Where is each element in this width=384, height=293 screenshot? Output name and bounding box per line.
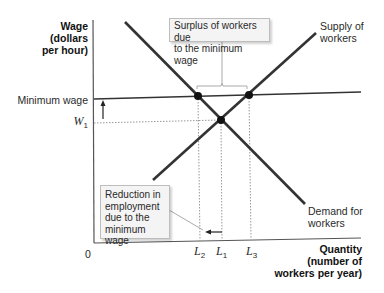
x-axis-label-line: workers per year) xyxy=(262,267,362,279)
supply-label-line: workers xyxy=(320,32,364,44)
equilibrium-point xyxy=(217,116,225,124)
minimum-wage-label: Minimum wage xyxy=(10,94,88,106)
l2-guide-line xyxy=(198,96,200,241)
surplus-bracket xyxy=(197,83,247,89)
l2-label: L2 xyxy=(194,245,205,262)
w1-base: W xyxy=(74,114,84,128)
x-axis-label-line: (number of xyxy=(262,255,362,267)
w1-guide-line xyxy=(94,120,221,123)
surplus-callout-line: to the minimum wage xyxy=(174,43,265,66)
reduction-callout-line: minimum wage xyxy=(105,224,165,247)
l3-sub: 3 xyxy=(253,251,257,260)
l3-label: L3 xyxy=(246,245,257,262)
supply-label-line: Supply of xyxy=(320,20,364,32)
supply-minwage-point xyxy=(245,91,253,99)
y-axis-label-line: per hour) xyxy=(20,44,88,56)
surplus-callout: Surplus of workers due to the minimum wa… xyxy=(169,18,270,42)
surplus-callout-line: Surplus of workers due xyxy=(174,20,265,43)
l1-guide-line xyxy=(221,120,222,240)
arrow-left-icon xyxy=(205,230,211,235)
y-axis-label-line: Wage xyxy=(20,20,88,32)
w1-sub: 1 xyxy=(84,121,88,130)
l1-label: L1 xyxy=(216,245,227,262)
reduction-callout-line: due to the xyxy=(105,212,165,224)
demand-label-line: workers xyxy=(308,217,363,229)
l2-base: L xyxy=(194,244,201,258)
demand-label-line: Demand for xyxy=(308,205,363,217)
y-axis-label-line: (dollars xyxy=(20,32,88,44)
l1-base: L xyxy=(216,244,223,258)
y-axis-label: Wage (dollars per hour) xyxy=(20,20,88,56)
arrow-up-icon xyxy=(101,100,106,106)
l3-base: L xyxy=(246,244,253,258)
demand-minwage-point xyxy=(194,92,202,100)
minimum-wage-line xyxy=(94,92,361,99)
origin-label: 0 xyxy=(85,248,91,260)
reduction-callout: Reduction in employment due to the minim… xyxy=(100,185,170,239)
l3-guide-line xyxy=(249,95,251,239)
x-axis-label: Quantity (number of workers per year) xyxy=(262,243,362,279)
reduction-leader-line xyxy=(169,210,203,230)
y-axis xyxy=(93,20,94,243)
l2-sub: 2 xyxy=(201,251,205,260)
w1-label: W1 xyxy=(60,115,88,132)
reduction-callout-line: Reduction in xyxy=(105,189,165,201)
supply-curve-label: Supply of workers xyxy=(320,20,364,44)
reduction-callout-line: employment xyxy=(105,201,165,213)
demand-curve-label: Demand for workers xyxy=(308,205,363,229)
l1-sub: 1 xyxy=(223,251,227,260)
x-axis-label-line: Quantity xyxy=(262,243,362,255)
